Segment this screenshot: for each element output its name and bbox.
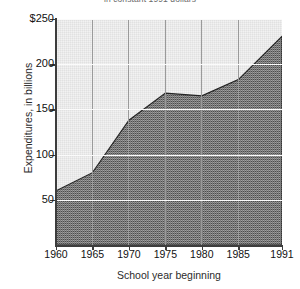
plot-area	[56, 19, 282, 245]
x-tick-label: 1960	[36, 248, 76, 260]
y-tick-label: $250	[0, 12, 54, 24]
x-gridline	[92, 19, 93, 245]
x-tick-label: 1980	[182, 248, 222, 260]
y-tick-label: 100	[0, 148, 54, 160]
y-tick-label: 150	[0, 102, 54, 114]
y-gridline	[56, 200, 282, 201]
area-series	[56, 19, 282, 245]
y-gridline	[56, 19, 282, 20]
x-axis-label: School year beginning	[56, 269, 282, 281]
x-tick-label: 1965	[72, 248, 112, 260]
x-tick-label: 1970	[109, 248, 149, 260]
x-tick-label: 1985	[218, 248, 258, 260]
y-gridline	[56, 155, 282, 156]
x-gridline	[238, 19, 239, 245]
y-tick-label: 50	[0, 193, 54, 205]
x-tick-label: 1991	[262, 248, 300, 260]
x-gridline	[282, 19, 283, 245]
chart-title: in constant 1991 dollars	[0, 0, 300, 3]
chart-figure: in constant 1991 dollars Expenditures, i…	[0, 0, 300, 289]
y-gridline	[56, 64, 282, 65]
y-axis-label: Expenditures, in billions	[22, 23, 34, 213]
x-tick-label: 1975	[145, 248, 185, 260]
y-tick-label: 200	[0, 57, 54, 69]
x-axis-line	[55, 245, 283, 247]
x-gridline	[201, 19, 202, 245]
x-gridline	[165, 19, 166, 245]
y-gridline	[56, 109, 282, 110]
x-gridline	[128, 19, 129, 245]
y-axis-line	[55, 18, 57, 246]
